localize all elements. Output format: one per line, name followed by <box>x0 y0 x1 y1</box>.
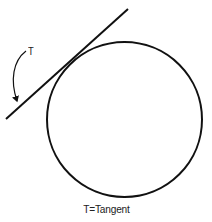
tangent-marker-label: T <box>28 46 34 57</box>
circle <box>47 42 202 197</box>
caption: T=Tangent <box>0 204 212 216</box>
tangent-diagram <box>0 0 212 222</box>
caption-text: T=Tangent <box>83 204 130 216</box>
pointer-arrow-icon <box>13 51 26 101</box>
tangent-line <box>6 9 128 119</box>
